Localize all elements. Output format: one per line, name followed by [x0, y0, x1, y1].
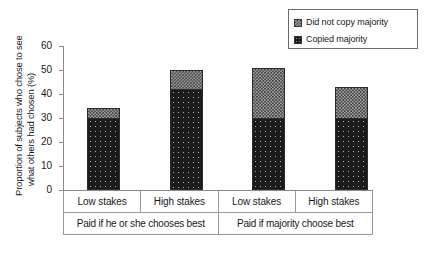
bar-segment-did-not-copy-majority	[87, 108, 120, 118]
bar-group-2-high-stakes	[335, 87, 368, 190]
y-axis-title: Proportion of subjects who chose to see …	[2, 38, 32, 198]
category-label-high-stakes-2: High stakes	[296, 191, 372, 212]
bar-group-2-low-stakes	[252, 68, 285, 190]
stacked-bar-chart: Did not copy majority Copied majority Pr…	[0, 0, 427, 253]
category-row-stakes: Low stakes High stakes Low stakes High s…	[64, 191, 372, 213]
bar-segment-did-not-copy-majority	[170, 70, 203, 89]
y-tick-label-50: 50	[41, 65, 52, 75]
category-label-high-stakes-1: High stakes	[141, 191, 218, 212]
chart-legend: Did not copy majority Copied majority	[288, 9, 418, 49]
y-tick-30: 30	[59, 118, 64, 119]
legend-swatch-gray-checkered-icon	[294, 19, 302, 27]
legend-label-copied-majority: Copied majority	[306, 35, 367, 44]
y-tick-label-10: 10	[41, 161, 52, 171]
category-label-low-stakes-2: Low stakes	[219, 191, 296, 212]
bar-group-1-low-stakes	[87, 108, 120, 190]
category-row-groups: Paid if he or she chooses best Paid if m…	[64, 213, 372, 234]
bar-segment-did-not-copy-majority	[252, 68, 285, 118]
y-tick-10: 10	[59, 166, 64, 167]
y-axis-title-line-1: Proportion of subjects who chose to see	[14, 35, 24, 196]
legend-label-did-not-copy-majority: Did not copy majority	[306, 18, 388, 27]
y-tick-20: 20	[59, 142, 64, 143]
category-label-table: Low stakes High stakes Low stakes High s…	[63, 191, 373, 235]
y-tick-50: 50	[59, 70, 64, 71]
y-tick-label-0: 0	[46, 185, 52, 195]
bar-segment-copied-majority	[252, 118, 285, 190]
y-tick-label-20: 20	[41, 137, 52, 147]
category-label-low-stakes-1: Low stakes	[64, 191, 141, 212]
group-label-paid-if-he-or-she-chooses-best: Paid if he or she chooses best	[64, 213, 219, 234]
y-axis-title-line-2: what others had chosen (%)	[26, 73, 36, 186]
bar-segment-copied-majority	[87, 118, 120, 190]
bar-segment-copied-majority	[335, 118, 368, 190]
y-tick-label-40: 40	[41, 89, 52, 99]
bar-segment-copied-majority	[170, 89, 203, 190]
plot-area: 60 50 40 30 20 10 0	[63, 46, 373, 191]
y-tick-60: 60	[59, 46, 64, 47]
legend-swatch-dark-dotted-icon	[294, 36, 302, 44]
legend-item-did-not-copy-majority: Did not copy majority	[294, 14, 413, 31]
bar-group-1-high-stakes	[170, 70, 203, 190]
y-tick-40: 40	[59, 94, 64, 95]
group-label-paid-if-majority-choose-best: Paid if majority choose best	[219, 213, 373, 234]
y-tick-label-60: 60	[41, 41, 52, 51]
bar-segment-did-not-copy-majority	[335, 87, 368, 118]
y-tick-label-30: 30	[41, 113, 52, 123]
